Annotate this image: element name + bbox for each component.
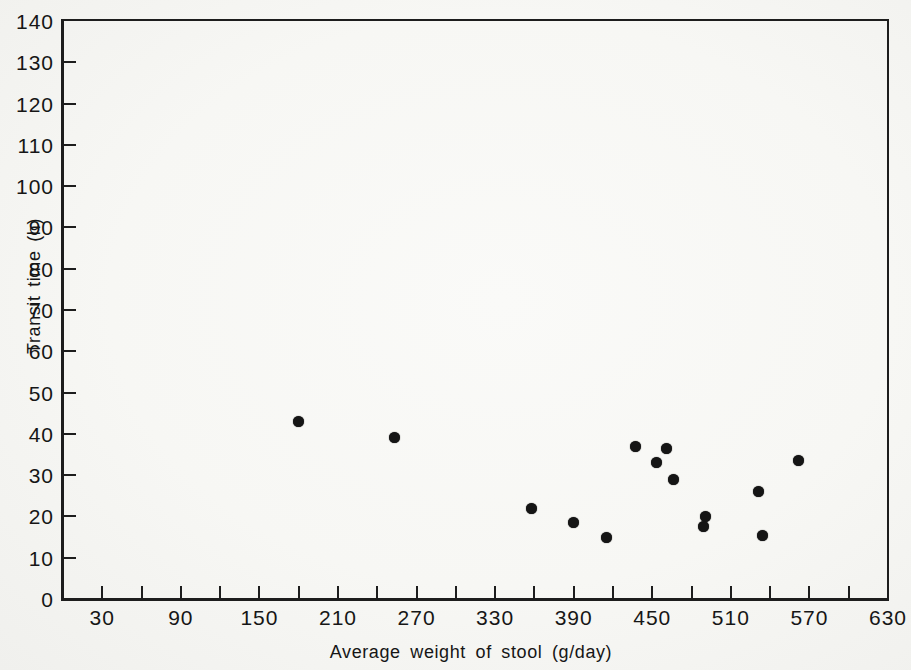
y-tick-mark [64, 185, 76, 187]
x-tick-mark [573, 586, 575, 600]
stool-weight-transit-time-scatter-figure: Transit time (h) Average weight of stool… [0, 0, 911, 670]
x-tick-mark [337, 586, 339, 600]
y-tick-mark [64, 103, 76, 105]
y-tick-mark [64, 350, 76, 352]
y-tick-mark [64, 268, 76, 270]
x-tick-mark [651, 586, 653, 600]
data-point [651, 457, 662, 468]
y-tick-label: 90 [0, 217, 54, 238]
x-tick-mark [691, 586, 693, 600]
x-tick-mark [769, 586, 771, 600]
y-tick-label: 30 [0, 465, 54, 486]
x-tick-mark [494, 586, 496, 600]
data-point [757, 530, 768, 541]
x-tick-mark [730, 586, 732, 600]
x-tick-mark [141, 586, 143, 600]
x-tick-mark [101, 586, 103, 600]
y-tick-mark [64, 557, 76, 559]
y-tick-mark [64, 515, 76, 517]
x-tick-mark [455, 586, 457, 600]
x-tick-label: 90 [168, 607, 193, 628]
x-tick-mark [258, 586, 260, 600]
x-tick-label: 630 [869, 607, 907, 628]
y-tick-label: 110 [0, 134, 54, 155]
x-tick-mark [219, 586, 221, 600]
x-tick-mark [808, 586, 810, 600]
y-tick-mark [64, 226, 76, 228]
y-tick-label: 100 [0, 176, 54, 197]
data-point [630, 441, 641, 452]
x-tick-label: 450 [633, 607, 671, 628]
x-tick-label: 150 [240, 607, 278, 628]
plot-frame [61, 19, 889, 601]
x-tick-label: 510 [712, 607, 750, 628]
x-tick-mark [298, 586, 300, 600]
x-tick-label: 570 [790, 607, 828, 628]
data-point [526, 503, 537, 514]
y-tick-label: 10 [0, 547, 54, 568]
x-tick-mark [533, 586, 535, 600]
y-tick-label: 40 [0, 423, 54, 444]
y-tick-label: 120 [0, 93, 54, 114]
x-tick-mark [612, 586, 614, 600]
x-tick-mark [180, 586, 182, 600]
x-tick-label: 270 [398, 607, 436, 628]
y-tick-mark [64, 474, 76, 476]
y-tick-label: 140 [0, 11, 54, 32]
y-tick-label: 0 [0, 589, 54, 610]
y-tick-label: 130 [0, 52, 54, 73]
y-tick-mark [64, 392, 76, 394]
y-tick-label: 80 [0, 258, 54, 279]
y-tick-label: 20 [0, 506, 54, 527]
x-axis-title: Average weight of stool (g/day) [330, 642, 612, 663]
x-tick-label: 210 [319, 607, 357, 628]
data-point [661, 443, 672, 454]
x-tick-mark [848, 586, 850, 600]
y-tick-mark [64, 144, 76, 146]
x-tick-label: 30 [90, 607, 115, 628]
y-tick-mark [64, 309, 76, 311]
x-tick-mark [376, 586, 378, 600]
data-point [753, 486, 764, 497]
data-point [601, 532, 612, 543]
x-tick-mark [416, 586, 418, 600]
x-tick-label: 390 [555, 607, 593, 628]
y-tick-label: 70 [0, 300, 54, 321]
data-point [668, 474, 679, 485]
y-tick-label: 50 [0, 382, 54, 403]
y-tick-label: 60 [0, 341, 54, 362]
y-tick-mark [64, 433, 76, 435]
y-tick-mark [64, 61, 76, 63]
x-tick-label: 330 [476, 607, 514, 628]
